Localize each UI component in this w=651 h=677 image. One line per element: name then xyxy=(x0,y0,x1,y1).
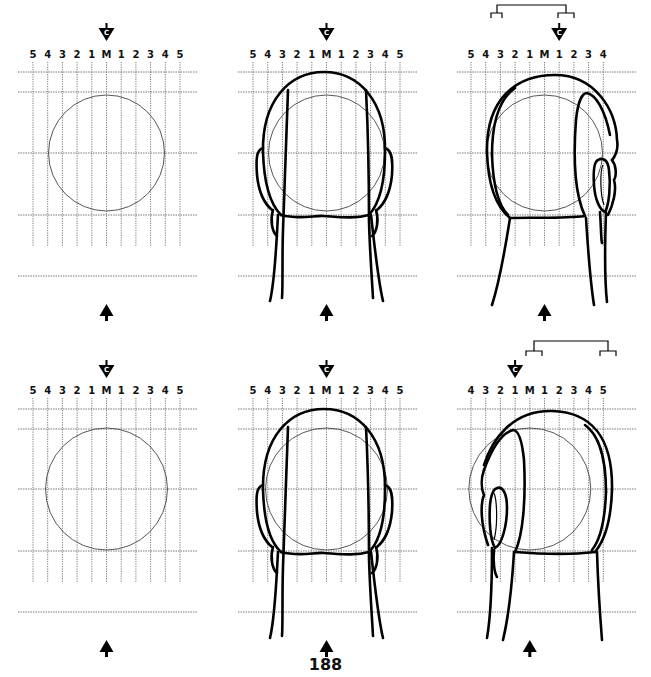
center-marker-icon xyxy=(319,23,335,41)
grid-label: 4 xyxy=(585,385,592,396)
grid-label: 4 xyxy=(44,49,51,60)
grid-label: 5 xyxy=(30,49,37,60)
grid-label: 2 xyxy=(512,49,519,60)
center-marker-icon xyxy=(551,23,567,41)
grid-label: 2 xyxy=(570,49,577,60)
grid-label: 1 xyxy=(88,49,95,60)
grid-label: 4 xyxy=(44,385,51,396)
grid-label: 4 xyxy=(162,49,169,60)
grid-label: 5 xyxy=(397,49,404,60)
grid-label: M xyxy=(540,49,550,60)
grid-label: M xyxy=(102,385,112,396)
grid-label: 1 xyxy=(118,49,125,60)
rotation-bracket-top xyxy=(491,5,574,18)
grid-label: 5 xyxy=(468,49,475,60)
grid-label: 3 xyxy=(147,385,154,396)
grid-label: 2 xyxy=(74,49,81,60)
panel-bottom-left: 54321M12345 xyxy=(18,360,198,657)
grid-label: 2 xyxy=(352,385,359,396)
grid-label: 3 xyxy=(279,385,286,396)
panel-top-left: 54321M12345 xyxy=(18,23,198,321)
up-arrow-icon xyxy=(538,304,552,321)
grid-label: 5 xyxy=(250,49,257,60)
center-marker-icon xyxy=(319,360,335,378)
grid-label: 5 xyxy=(397,385,404,396)
up-arrow-icon xyxy=(100,304,114,321)
head-rotation-diagram: C 54321M1234554321M1234554321M123454321M… xyxy=(0,0,651,677)
grid-label: 5 xyxy=(600,385,607,396)
grid-label: 1 xyxy=(338,49,345,60)
grid-label: 3 xyxy=(59,385,66,396)
grid-label: 2 xyxy=(294,385,301,396)
grid-label: 5 xyxy=(250,385,257,396)
grid-label: 3 xyxy=(497,49,504,60)
grid-label: 1 xyxy=(118,385,125,396)
grid-label: 1 xyxy=(88,385,95,396)
grid-label: 4 xyxy=(382,49,389,60)
grid-label: 5 xyxy=(177,385,184,396)
grid-label: 1 xyxy=(556,49,563,60)
grid-label: 3 xyxy=(279,49,286,60)
grid-label: 2 xyxy=(556,385,563,396)
grid-label: 1 xyxy=(308,385,315,396)
grid-label: 1 xyxy=(512,385,519,396)
grid-label: M xyxy=(322,49,332,60)
grid-label: 1 xyxy=(338,385,345,396)
grid-label: 2 xyxy=(132,49,139,60)
center-marker-icon xyxy=(507,360,523,378)
grid-label: 5 xyxy=(30,385,37,396)
head-drawing-top-center xyxy=(257,72,393,301)
page-number: 188 xyxy=(0,655,651,674)
grid-label: 3 xyxy=(367,385,374,396)
head-drawing-bottom-center xyxy=(257,409,393,638)
grid-label: 1 xyxy=(526,49,533,60)
grid-label: 4 xyxy=(162,385,169,396)
grid-label: 4 xyxy=(468,385,475,396)
grid-label: 4 xyxy=(264,49,271,60)
grid-label: M xyxy=(525,385,535,396)
grid-label: 2 xyxy=(352,49,359,60)
rotation-bracket-bottom xyxy=(526,341,616,356)
grid-label: 2 xyxy=(294,49,301,60)
grid-label: 3 xyxy=(367,49,374,60)
grid-label: 3 xyxy=(482,385,489,396)
grid-label: 4 xyxy=(600,49,607,60)
center-marker-icon xyxy=(99,360,115,378)
grid-label: 3 xyxy=(585,49,592,60)
grid-label: M xyxy=(322,385,332,396)
grid-label: 3 xyxy=(570,385,577,396)
grid-label: 2 xyxy=(497,385,504,396)
grid-label: 1 xyxy=(541,385,548,396)
grid-label: 3 xyxy=(59,49,66,60)
grid-label: 1 xyxy=(308,49,315,60)
grid-label: 4 xyxy=(382,385,389,396)
grid-label: 2 xyxy=(74,385,81,396)
up-arrow-icon xyxy=(320,304,334,321)
grid-label: 4 xyxy=(482,49,489,60)
head-drawing-bottom-right xyxy=(482,411,612,640)
grid-label: 5 xyxy=(177,49,184,60)
grid-label: 3 xyxy=(147,49,154,60)
grid-label: 4 xyxy=(264,385,271,396)
grid-label: M xyxy=(102,49,112,60)
grid-label: 2 xyxy=(132,385,139,396)
center-marker-icon xyxy=(99,23,115,41)
